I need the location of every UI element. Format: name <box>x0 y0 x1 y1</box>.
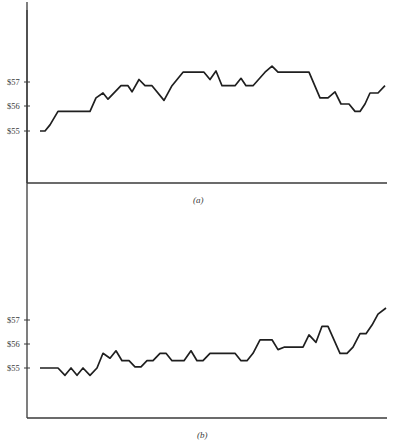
y-tick-label-55-b: $55 <box>7 363 20 373</box>
price-line-a <box>40 66 385 131</box>
caption-b: (b) <box>197 430 208 440</box>
chart-panel-b: $57 $56 $55 (b) <box>7 10 387 440</box>
chart-panel-a: $57 $56 $55 (a) <box>7 2 387 205</box>
figure: $57 $56 $55 (a) $57 $56 $55 (b) <box>0 0 399 448</box>
y-tick-label-56-a: $56 <box>7 101 20 111</box>
y-tick-label-56-b: $56 <box>7 339 20 349</box>
y-tick-label-55-a: $55 <box>7 126 20 136</box>
y-tick-label-57-a: $57 <box>7 77 20 87</box>
caption-a: (a) <box>193 195 204 205</box>
price-line-b <box>40 308 386 375</box>
y-tick-label-57-b: $57 <box>7 315 20 325</box>
